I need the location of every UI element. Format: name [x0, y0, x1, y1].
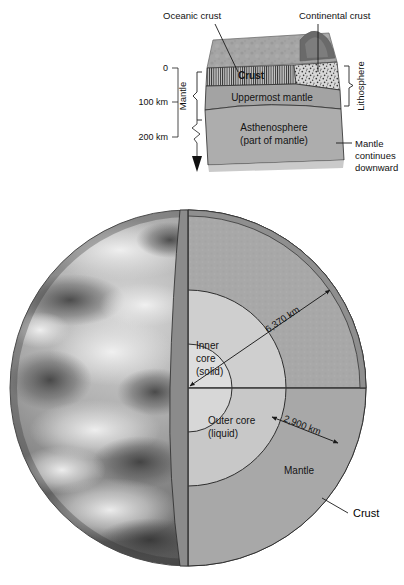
figure-canvas: Crust Uppermost mantle Asthenosphere (pa…: [0, 0, 404, 585]
inset-uppermost-mantle-label: Uppermost mantle: [231, 92, 313, 103]
earth-structure-figure: Crust Uppermost mantle Asthenosphere (pa…: [0, 0, 404, 585]
inset-mantle-bracket-label: Mantle: [177, 82, 188, 111]
inset-asthenosphere-sublabel: (part of mantle): [240, 135, 308, 146]
mantle-label: Mantle: [284, 465, 314, 476]
lithosphere-bracket: [344, 66, 353, 106]
mantle-continues-line3: downward: [355, 162, 398, 173]
inset-asthenosphere-label: Asthenosphere: [240, 122, 308, 133]
outer-core-label-line1: Outer core: [208, 415, 256, 426]
mantle-down-arrow-head: [192, 156, 202, 172]
outer-core-label-line2: (liquid): [208, 428, 238, 439]
inner-core-label-line3: (solid): [196, 366, 223, 377]
continental-crust-callout-label: Continental crust: [299, 10, 371, 21]
inset-crust-label: Crust: [238, 70, 265, 81]
mantle-break-zigzag: [192, 120, 200, 150]
depth-label-200: 200 km: [138, 132, 168, 142]
mantle-bracket: [193, 72, 202, 120]
mantle-continues-line1: Mantle: [355, 138, 384, 149]
mantle-continues-line2: continues: [355, 150, 396, 161]
oceanic-crust-callout-label: Oceanic crust: [163, 10, 221, 21]
earth-globe-group: Inner core (solid) Outer core (liquid) M…: [8, 210, 379, 566]
inner-core-label-line2: core: [196, 353, 216, 364]
depth-label-0: 0: [163, 63, 168, 73]
lithosphere-label: Lithosphere: [355, 61, 366, 111]
crust-leader: [322, 498, 348, 513]
earth-crust-label: Crust: [353, 507, 379, 519]
inner-core-label-line1: Inner: [196, 340, 219, 351]
depth-label-100: 100 km: [138, 97, 168, 107]
inset-block-group: Crust Uppermost mantle Asthenosphere (pa…: [138, 10, 398, 173]
